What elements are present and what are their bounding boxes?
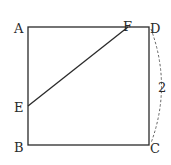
geometry-diagram: A B C D E F 2 <box>0 0 171 165</box>
label-b: B <box>14 140 24 155</box>
label-e: E <box>14 100 24 115</box>
segment-ef <box>28 27 128 106</box>
label-f: F <box>123 19 132 34</box>
label-length: 2 <box>158 80 166 95</box>
label-a: A <box>13 21 24 36</box>
square-abcd <box>28 27 149 145</box>
label-d: D <box>150 21 160 36</box>
label-c: C <box>150 141 160 156</box>
